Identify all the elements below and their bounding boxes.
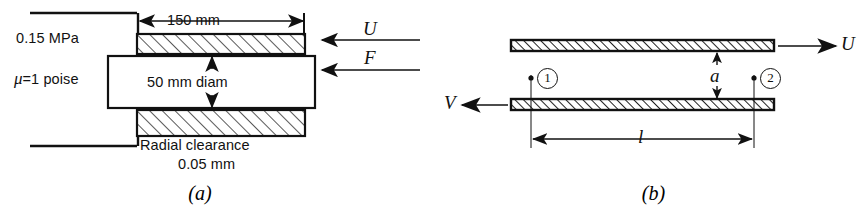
panel-b-parallel-plates: 1 2 U V a l (b) [440, 0, 867, 224]
plate-top [511, 40, 774, 51]
label-diameter-50mm: 50 mm diam [147, 75, 228, 90]
label-length-150mm: 150 mm [167, 13, 220, 28]
point-marker-1 [528, 75, 533, 80]
point-marker-2 [751, 75, 756, 80]
figure-root: 0.15 MPa μ=1 poise 150 mm 50 mm diam Rad… [0, 0, 867, 224]
label-viscosity: μ=1 poise [14, 70, 79, 87]
panel-b-caption: (b) [440, 182, 867, 205]
label-velocity-U-top: U [841, 34, 855, 53]
label-length-l: l [638, 127, 643, 146]
panel-a-caption: (a) [0, 182, 400, 205]
viscosity-symbol: μ [14, 69, 23, 88]
label-force-F: F [364, 48, 376, 67]
label-clearance-value: 0.05 mm [178, 157, 235, 172]
cylinder-block-lower [137, 110, 305, 136]
panel-a-piston-cylinder: 0.15 MPa μ=1 poise 150 mm 50 mm diam Rad… [0, 0, 440, 224]
cylinder-block-upper [137, 34, 305, 54]
point-label-1: 1 [537, 68, 558, 89]
label-velocity-V-bottom: V [444, 93, 456, 112]
label-gap-a: a [710, 66, 720, 85]
label-velocity-U: U [363, 19, 377, 38]
point-label-2: 2 [760, 68, 781, 89]
plate-bottom [511, 99, 774, 110]
viscosity-value: =1 poise [23, 71, 79, 87]
label-pressure: 0.15 MPa [16, 31, 79, 46]
label-radial-clearance: Radial clearance [140, 138, 250, 153]
